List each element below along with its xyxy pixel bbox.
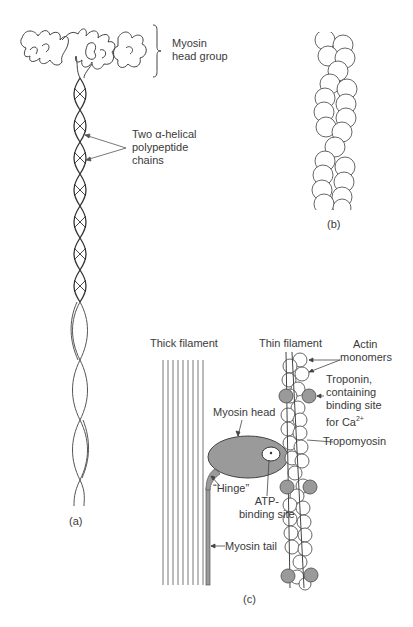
panel-a-caption: (a) — [69, 515, 82, 528]
label-line: Actin — [340, 338, 392, 351]
label-line: for Ca2+ — [326, 412, 382, 429]
thick-filament — [163, 360, 203, 585]
label-line: polypeptide — [132, 141, 196, 154]
ca-text: for Ca — [326, 416, 356, 428]
thick-filament-label: Thick filament — [150, 337, 218, 350]
label-line: head group — [172, 50, 228, 63]
tropomyosin-label: Tropomyosin — [323, 435, 386, 448]
hinge-label: “Hinge” — [213, 482, 249, 495]
myosin-tail-label: Myosin tail — [225, 540, 277, 553]
head-group-bracket — [153, 25, 161, 77]
label-line: chains — [132, 154, 196, 167]
ca-charge: 2+ — [356, 415, 364, 422]
panel-c-caption: (c) — [243, 593, 256, 606]
thin-filament-label: Thin filament — [259, 337, 322, 350]
actin-monomers-label: Actin monomers — [340, 338, 392, 364]
thin-filament — [281, 353, 312, 590]
atp-binding-site-label: ATP- binding site — [239, 495, 295, 521]
label-line: binding site — [326, 399, 382, 412]
panel-b-caption: (b) — [327, 218, 340, 231]
label-line: monomers — [340, 351, 392, 364]
myosin-head-group-label: Myosin head group — [172, 37, 228, 63]
label-line: Myosin — [172, 37, 228, 50]
alpha-helix-coil — [74, 78, 86, 302]
diagram-canvas — [0, 0, 413, 627]
label-line: Two α-helical — [132, 128, 196, 141]
troponin-label: Troponin, containing binding site for Ca… — [326, 373, 382, 429]
myosin-head-group — [21, 29, 146, 78]
label-line: containing — [326, 386, 382, 399]
label-line: ATP- — [239, 495, 295, 508]
helix-pointer-arrows — [85, 134, 126, 161]
label-line: binding site — [239, 508, 295, 521]
actin-filament-helix — [312, 30, 357, 217]
myosin-tail-shape — [206, 488, 210, 585]
alpha-helix-label: Two α-helical polypeptide chains — [132, 128, 196, 167]
alpha-helix-tail — [71, 302, 88, 506]
myosin-head-label: Myosin head — [213, 406, 275, 419]
label-line: Troponin, — [326, 373, 382, 386]
